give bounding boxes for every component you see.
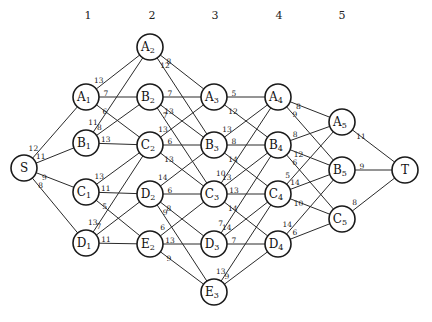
edge-weight-S-B1: 11 bbox=[36, 152, 46, 161]
edge-weight-B1-C2: 13 bbox=[101, 135, 111, 144]
edge-weight-B1-B2: 8 bbox=[97, 123, 102, 132]
node-E2: E2 bbox=[137, 231, 163, 257]
edge-C5-T bbox=[352, 178, 394, 211]
edge-weight-C1-C2: 13 bbox=[94, 172, 104, 181]
edge-weight-C3-B4: 13 bbox=[222, 173, 232, 182]
edge-weight-C4-B5: 14 bbox=[290, 178, 300, 187]
node-T: T bbox=[392, 157, 418, 183]
edge-weight-B3-C4: 14 bbox=[228, 155, 238, 164]
edge-weight-B5-T: 9 bbox=[360, 162, 365, 171]
edge-weight-C3-C4: 13 bbox=[229, 186, 239, 195]
node-E3: E3 bbox=[201, 279, 227, 305]
node-D4: D4 bbox=[265, 231, 291, 257]
edge-weight-A5-T: 11 bbox=[356, 132, 366, 141]
stage-graph-diagram: 12345 1211981376118131311513711812713713… bbox=[0, 0, 432, 322]
edge-weight-D4-C5: 6 bbox=[292, 228, 297, 237]
edge-weight-D1-D2: 7 bbox=[96, 222, 101, 231]
node-C3: C3 bbox=[201, 181, 227, 207]
edge-E3-C4 bbox=[221, 205, 271, 281]
edge-weight-E2-C3: 6 bbox=[160, 223, 165, 232]
node-D1: D1 bbox=[73, 230, 99, 256]
edge-weight-C1-E2: 5 bbox=[102, 202, 107, 211]
edge-weight-B4-C5: 6 bbox=[292, 158, 297, 167]
edge-weight-C3-D4: 14 bbox=[228, 204, 238, 213]
node-A5: A5 bbox=[329, 109, 355, 135]
edge-weight-D2-C3: 6 bbox=[168, 186, 173, 195]
edge-weight-D2-B3: 14 bbox=[158, 173, 168, 182]
node-B1: B1 bbox=[73, 130, 99, 156]
node-A3: A3 bbox=[201, 84, 227, 110]
edge-weight-B2-A3: 7 bbox=[168, 89, 173, 98]
node-D2: D2 bbox=[137, 181, 163, 207]
edge-weight-A3-B4: 12 bbox=[228, 107, 238, 116]
edge-weight-D3-C4: 14 bbox=[222, 223, 232, 232]
edge-weight-C5-T: 8 bbox=[352, 198, 357, 207]
edge-weight-D2-E3: 9 bbox=[163, 208, 168, 217]
edge-weight-A1-C2: 6 bbox=[103, 107, 108, 116]
node-C2: C2 bbox=[137, 132, 163, 158]
edge-weight-E2-E3: 9 bbox=[167, 254, 172, 263]
edge-weight-E3-D4: 9 bbox=[225, 272, 230, 281]
edge-weight-B4-A5: 8 bbox=[293, 130, 298, 139]
node-label: S bbox=[20, 161, 28, 175]
stage-header-3: 3 bbox=[212, 9, 219, 22]
edge-weight-B2-C3: 7 bbox=[163, 111, 168, 120]
edge-S-A1 bbox=[33, 107, 78, 158]
node-B4: B4 bbox=[265, 132, 291, 158]
edge-weight-S-D1: 8 bbox=[38, 181, 43, 190]
edge-weight-C1-D2: 11 bbox=[101, 184, 111, 193]
stage-headers: 12345 bbox=[85, 9, 346, 22]
edge-weight-E2-D3: 13 bbox=[165, 236, 175, 245]
edge-weight-B3-B4: 8 bbox=[232, 137, 237, 146]
stage-header-1: 1 bbox=[85, 9, 92, 22]
node-A1: A1 bbox=[73, 84, 99, 110]
edge-weight-D3-D4: 7 bbox=[232, 236, 237, 245]
edge-weight-A2-B3: 12 bbox=[160, 61, 170, 70]
node-C4: C4 bbox=[265, 181, 291, 207]
node-label: T bbox=[401, 163, 409, 177]
stage-header-5: 5 bbox=[339, 9, 346, 22]
node-A4: A4 bbox=[265, 84, 291, 110]
node-B5: B5 bbox=[329, 157, 355, 183]
edge-weight-A3-A4: 5 bbox=[232, 89, 237, 98]
edge-weight-C4-C5: 10 bbox=[294, 199, 304, 208]
node-S: S bbox=[11, 155, 37, 181]
node-C5: C5 bbox=[329, 206, 355, 232]
node-A2: A2 bbox=[137, 34, 163, 60]
node-B2: B2 bbox=[137, 84, 163, 110]
node-C1: C1 bbox=[73, 179, 99, 205]
edge-weight-D1-E2: 11 bbox=[101, 235, 111, 244]
stage-header-4: 4 bbox=[276, 9, 283, 22]
edge-weight-C2-A3: 13 bbox=[158, 125, 168, 134]
edge-weight-C2-C3: 13 bbox=[164, 155, 174, 164]
edge-weight-A4-B5: 9 bbox=[293, 110, 298, 119]
node-B3: B3 bbox=[201, 132, 227, 158]
edge-weight-A1-A2: 13 bbox=[94, 76, 104, 85]
node-D3: D3 bbox=[201, 231, 227, 257]
edge-weight-D4-B5: 14 bbox=[283, 220, 293, 229]
edge-weight-B3-A4: 13 bbox=[222, 125, 232, 134]
edge-weight-A1-B2: 7 bbox=[104, 89, 109, 98]
stage-header-2: 2 bbox=[149, 9, 156, 22]
edge-E3-D4 bbox=[224, 252, 267, 284]
edge-weight-C2-B3: 6 bbox=[168, 137, 173, 146]
